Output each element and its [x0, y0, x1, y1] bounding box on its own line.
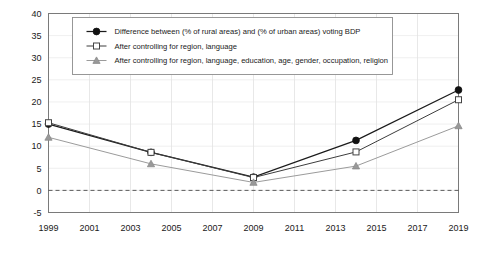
y-axis-tick-label: -5 — [33, 208, 41, 218]
x-axis-tick-label: 2013 — [325, 223, 345, 233]
x-axis-tick-label: 2007 — [202, 223, 222, 233]
y-axis-tick-label: 5 — [36, 164, 41, 174]
x-axis-tick-label: 2017 — [407, 223, 427, 233]
x-axis-tick-label: 2015 — [366, 223, 386, 233]
series-difference-raw-point — [455, 87, 462, 94]
x-axis-tick-label: 2003 — [120, 223, 140, 233]
x-axis-tick-label: 2011 — [285, 223, 304, 233]
y-axis-tick-label: 30 — [31, 53, 41, 63]
chart-container: 4035302520151050-51999200120032005200720… — [0, 0, 479, 254]
x-axis-tick-label: 1999 — [38, 223, 58, 233]
series-controlled-region-language-point — [456, 97, 462, 103]
y-axis-tick-label: 40 — [31, 9, 41, 19]
series-difference-raw-point — [353, 137, 360, 144]
series-controlled-full-point — [455, 122, 462, 128]
y-axis-tick-label: 10 — [31, 141, 41, 151]
y-axis-tick-label: 20 — [31, 97, 41, 107]
legend-label: Difference between (% of rural areas) an… — [115, 27, 361, 36]
x-axis-tick-label: 2001 — [79, 223, 99, 233]
line-chart: 4035302520151050-51999200120032005200720… — [0, 0, 479, 254]
series-controlled-full-point — [352, 162, 359, 168]
y-axis-tick-label: 25 — [31, 75, 41, 85]
series-controlled-region-language-point — [46, 120, 52, 126]
legend-marker-filled-circle — [93, 28, 100, 35]
legend-label: After controlling for region, language, … — [115, 56, 389, 65]
series-controlled-full-point — [45, 134, 52, 140]
y-axis-tick-label: 0 — [36, 186, 41, 196]
series-controlled-region-language-point — [353, 149, 359, 155]
x-axis-tick-label: 2019 — [448, 223, 468, 233]
legend-marker-open-square — [94, 43, 100, 49]
legend-label: After controlling for region, language — [115, 42, 237, 51]
series-controlled-region-language-point — [148, 149, 154, 155]
x-axis-tick-label: 2005 — [161, 223, 181, 233]
y-axis-tick-label: 35 — [31, 31, 41, 41]
y-axis-tick-label: 15 — [31, 119, 41, 129]
x-axis-tick-label: 2009 — [243, 223, 263, 233]
